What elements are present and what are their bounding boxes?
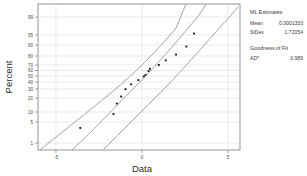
data-point <box>116 103 118 105</box>
y-tick-label: 60 <box>28 68 34 73</box>
y-tick-label: 70 <box>28 63 34 68</box>
data-point <box>130 83 132 85</box>
data-point <box>113 113 115 115</box>
y-tick-label: 1 <box>30 141 33 146</box>
data-point <box>175 54 177 56</box>
y-tick-label: 50 <box>28 74 34 79</box>
y-tick-label: 99 <box>28 15 34 20</box>
data-point <box>148 70 150 72</box>
goodness-of-fit-title: Goodness of Fit <box>250 45 289 51</box>
stdev-label: StDev <box>250 29 264 35</box>
ml-estimates-title: ML Estimates <box>250 9 283 15</box>
probability-plot-figure: 99 95 90 80 70 60 50 40 30 20 10 5 1 -5 … <box>0 0 307 176</box>
y-tick-label: 40 <box>28 80 34 85</box>
data-point <box>149 68 151 70</box>
y-axis-title: Percent <box>3 60 14 93</box>
data-point <box>158 64 160 66</box>
x-tick-label: -5 <box>54 155 59 160</box>
data-point <box>185 46 187 48</box>
mean-label: Mean <box>250 20 263 26</box>
data-point <box>79 127 81 129</box>
data-point <box>145 74 147 76</box>
x-tick-label: 0 <box>141 155 144 160</box>
y-tick-label: 95 <box>28 33 34 38</box>
data-point <box>193 33 195 35</box>
y-tick-label: 30 <box>28 87 34 92</box>
x-tick-label: 5 <box>227 155 230 160</box>
x-axis-title: Data <box>132 163 153 174</box>
data-point <box>165 59 167 61</box>
data-point <box>125 88 127 90</box>
data-point <box>137 79 139 81</box>
y-tick-label: 20 <box>28 96 34 101</box>
y-tick-label: 90 <box>28 43 34 48</box>
data-point <box>120 96 122 98</box>
ad-statistic-value: 0.989 <box>290 55 303 61</box>
y-tick-label: 5 <box>30 120 33 125</box>
y-tick-label: 80 <box>28 54 34 59</box>
y-tick-label: 10 <box>28 110 34 115</box>
mean-value: 0.0001333 <box>279 20 303 26</box>
data-point <box>143 75 145 77</box>
plot-area-background <box>38 4 240 150</box>
ad-statistic-label: AD* <box>250 55 259 61</box>
stdev-value: 1.72054 <box>285 29 304 35</box>
